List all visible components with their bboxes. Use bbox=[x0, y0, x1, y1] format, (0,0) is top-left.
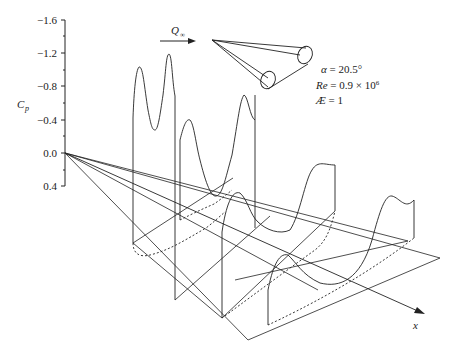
svg-text:α = 20.5°: α = 20.5° bbox=[321, 63, 362, 75]
tick-label: 0.4 bbox=[43, 180, 57, 192]
tick-label: 0.0 bbox=[43, 147, 57, 159]
cone-sketch bbox=[212, 40, 315, 91]
station-4-curve bbox=[268, 196, 414, 325]
freestream-arrow: Q ∞ bbox=[160, 24, 196, 44]
svg-text:Æ = 1: Æ = 1 bbox=[315, 94, 343, 106]
station-2-curve bbox=[180, 95, 255, 228]
svg-text:p: p bbox=[24, 104, 29, 113]
cp-axis bbox=[61, 20, 65, 186]
base-grid bbox=[65, 153, 440, 340]
cp-axis-label: C p bbox=[17, 98, 29, 113]
tick-label: −1.2 bbox=[37, 47, 57, 59]
svg-text:x: x bbox=[412, 319, 418, 331]
svg-text:C: C bbox=[17, 98, 25, 110]
station-1-curve bbox=[133, 54, 225, 300]
cp-tick-labels: −1.6 −1.2 −0.8 −0.4 0.0 0.4 bbox=[37, 14, 57, 192]
svg-text:Q: Q bbox=[171, 24, 179, 36]
station-3-curve bbox=[222, 164, 335, 318]
svg-text:Re = 0.9 × 106: Re = 0.9 × 106 bbox=[315, 79, 380, 91]
tick-label: −1.6 bbox=[37, 14, 57, 26]
cone-pressure-distribution-figure: −1.6 −1.2 −0.8 −0.4 0.0 0.4 C p x bbox=[0, 0, 456, 348]
svg-text:∞: ∞ bbox=[180, 31, 185, 39]
flow-parameters: α = 20.5° Re = 0.9 × 106 Æ = 1 bbox=[315, 63, 380, 106]
tick-label: −0.8 bbox=[37, 80, 57, 92]
tick-label: −0.4 bbox=[37, 114, 57, 126]
